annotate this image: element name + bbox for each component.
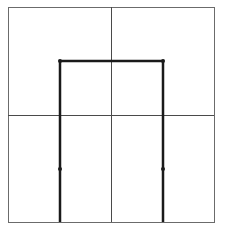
node-dot [58, 59, 62, 63]
diagram-canvas [0, 0, 226, 242]
node-dot [161, 59, 165, 63]
node-dot [161, 167, 165, 171]
node-dot [58, 167, 62, 171]
